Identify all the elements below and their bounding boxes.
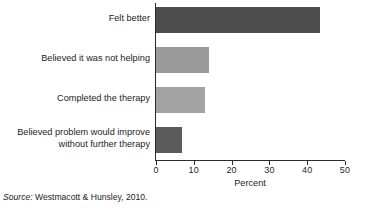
chart-row: Completed the therapy xyxy=(0,80,378,120)
bar-believed-problem-improve xyxy=(156,127,182,153)
category-label: Believed problem would improve without f… xyxy=(2,127,150,150)
bar-completed-therapy xyxy=(156,87,205,113)
bar-chart-figure: Felt better Believed it was not helping … xyxy=(0,0,378,209)
x-axis-line xyxy=(155,160,345,161)
chart-row: Felt better xyxy=(0,0,378,40)
plot-area: Felt better Believed it was not helping … xyxy=(0,0,378,172)
category-label: Felt better xyxy=(2,13,150,25)
x-tick-label: 0 xyxy=(141,165,171,175)
x-tick-label: 20 xyxy=(217,165,247,175)
chart-row: Believed it was not helping xyxy=(0,40,378,80)
x-tick-label: 50 xyxy=(330,165,360,175)
source-note: Source: Westmacott & Hunsley, 2010. xyxy=(3,192,147,202)
y-axis-line xyxy=(155,3,156,161)
x-axis-title: Percent xyxy=(155,178,345,188)
source-text: Westmacott & Hunsley, 2010. xyxy=(35,192,147,202)
x-tick-label: 40 xyxy=(292,165,322,175)
bar-felt-better xyxy=(156,7,320,33)
x-tick-label: 10 xyxy=(179,165,209,175)
category-label: Believed it was not helping xyxy=(2,53,150,65)
chart-row: Believed problem would improve without f… xyxy=(0,120,378,160)
source-prefix: Source: xyxy=(3,192,33,202)
bar-believed-not-helping xyxy=(156,47,209,73)
x-tick-label: 30 xyxy=(254,165,284,175)
category-label: Completed the therapy xyxy=(2,93,150,105)
